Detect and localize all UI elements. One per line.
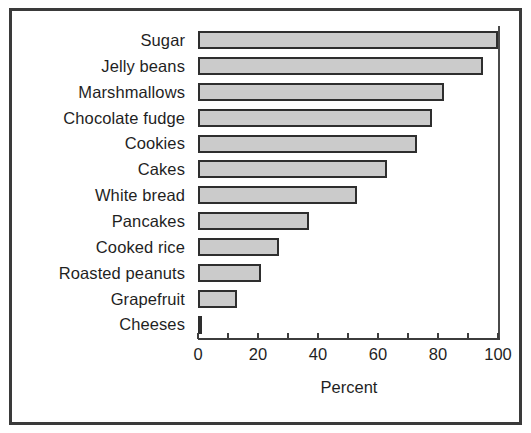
category-label: Jelly beans — [0, 54, 185, 80]
x-tick — [437, 333, 439, 339]
category-label: Grapefruit — [0, 287, 185, 313]
bar — [198, 238, 279, 256]
bar — [198, 31, 498, 49]
category-label: Cakes — [0, 157, 185, 183]
x-tick-label: 20 — [249, 345, 267, 364]
x-tick-label: 0 — [193, 345, 202, 364]
axis-spine-right — [498, 26, 500, 339]
bar — [198, 135, 417, 153]
bar — [198, 57, 483, 75]
bar-row: Chocolate fudge — [0, 106, 531, 132]
bar-row: Cooked rice — [0, 235, 531, 261]
x-tick — [467, 333, 469, 339]
x-tick — [377, 333, 379, 339]
x-tick — [407, 333, 409, 339]
category-label: Roasted peanuts — [0, 261, 185, 287]
bar — [198, 290, 237, 308]
chart-figure: SugarJelly beansMarshmallowsChocolate fu… — [0, 0, 531, 433]
category-label: Pancakes — [0, 209, 185, 235]
bar — [198, 160, 387, 178]
bar-row: Roasted peanuts — [0, 261, 531, 287]
bar-row: Grapefruit — [0, 287, 531, 313]
x-tick — [347, 333, 349, 339]
category-label: White bread — [0, 183, 185, 209]
x-tick — [497, 333, 499, 339]
bar-row: Cheeses — [0, 312, 531, 338]
bar-row: Marshmallows — [0, 80, 531, 106]
bar-row: Jelly beans — [0, 54, 531, 80]
category-label: Cheeses — [0, 312, 185, 338]
x-tick — [227, 333, 229, 339]
category-label: Sugar — [0, 28, 185, 54]
bar-row: Pancakes — [0, 209, 531, 235]
category-label: Cookies — [0, 131, 185, 157]
bar-row: White bread — [0, 183, 531, 209]
bar — [198, 83, 444, 101]
x-tick-label: 80 — [429, 345, 447, 364]
bar — [198, 212, 309, 230]
bar-row: Sugar — [0, 28, 531, 54]
bar-row: Cakes — [0, 157, 531, 183]
x-tick — [287, 333, 289, 339]
x-tick-label: 40 — [309, 345, 327, 364]
x-tick — [257, 333, 259, 339]
plot-area: SugarJelly beansMarshmallowsChocolate fu… — [0, 0, 531, 433]
bar — [198, 264, 261, 282]
category-label: Cooked rice — [0, 235, 185, 261]
x-tick-label: 100 — [484, 345, 512, 364]
x-axis-line — [198, 338, 500, 340]
category-label: Marshmallows — [0, 80, 185, 106]
bar — [198, 186, 357, 204]
category-label: Chocolate fudge — [0, 106, 185, 132]
bar — [198, 109, 432, 127]
bar — [198, 316, 202, 334]
x-axis-title: Percent — [198, 378, 500, 397]
bar-row: Cookies — [0, 131, 531, 157]
x-tick-label: 60 — [369, 345, 387, 364]
x-tick — [197, 333, 199, 339]
x-tick — [317, 333, 319, 339]
